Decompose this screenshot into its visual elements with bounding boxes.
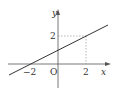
x-tick-2: 2: [83, 67, 89, 77]
x-tick-neg2: −2: [23, 67, 36, 77]
x-axis-label: x: [101, 67, 106, 77]
origin-label: O: [50, 67, 57, 77]
y-axis-label: y: [51, 8, 58, 18]
coordinate-graph: y 2 −2 O 2 x: [0, 0, 118, 90]
x-axis-arrow-icon: [105, 62, 111, 66]
y-tick-2: 2: [50, 31, 56, 41]
